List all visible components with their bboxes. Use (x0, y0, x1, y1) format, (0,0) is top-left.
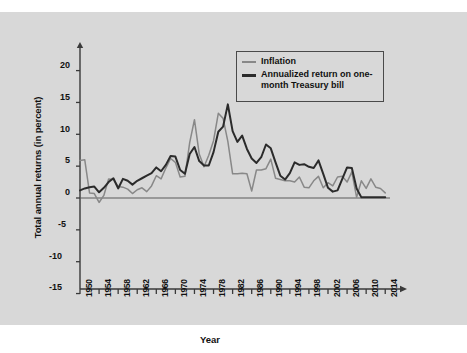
x-tick-label-1978: 1978 (217, 279, 227, 297)
legend-swatch-tbill-icon (242, 74, 256, 77)
x-tick-label-1970: 1970 (179, 279, 189, 297)
x-tick-label-1962: 1962 (141, 279, 151, 297)
x-tick-label-1990: 1990 (274, 279, 284, 297)
x-tick-label-1966: 1966 (160, 279, 170, 297)
series-line-tbill (80, 104, 385, 197)
x-tick-label-1998: 1998 (312, 279, 322, 297)
x-tick-label-1950: 1950 (84, 279, 94, 297)
x-tick-label-2014: 2014 (389, 279, 399, 297)
x-tick-label-1954: 1954 (103, 279, 113, 297)
y-tick-label-neg5: -5 (40, 219, 66, 229)
y-tick-label-10: 10 (44, 124, 70, 134)
x-tick-label-2010: 2010 (370, 279, 380, 297)
y-axis-title: Total annual returns (in percent) (32, 83, 43, 253)
y-tick-label-15: 15 (44, 92, 70, 102)
x-tick-label-1974: 1974 (198, 279, 208, 297)
figure-panel: 20 15 10 5 0 -5 -10 -15 Total annual ret… (0, 12, 467, 325)
x-tick-label-2006: 2006 (351, 279, 361, 297)
x-tick-label-1994: 1994 (293, 279, 303, 297)
y-tick-label-20: 20 (44, 60, 70, 70)
chart-legend: Inflation Annualized return on one-month… (236, 51, 384, 102)
y-tick-label-5: 5 (44, 155, 70, 165)
chart-plot-area: 20 15 10 5 0 -5 -10 -15 Total annual ret… (0, 12, 467, 325)
y-tick-label-neg10: -10 (36, 251, 62, 261)
legend-label-inflation: Inflation (261, 56, 296, 67)
legend-item-tbill: Annualized return on one-month Treasury … (242, 69, 378, 91)
legend-item-inflation: Inflation (242, 56, 378, 67)
x-tick-label-1958: 1958 (122, 279, 132, 297)
y-tick-label-0: 0 (44, 187, 70, 197)
bottom-caption (0, 340, 467, 353)
x-tick-label-1986: 1986 (255, 279, 265, 297)
figure-root: 20 15 10 5 0 -5 -10 -15 Total annual ret… (0, 0, 467, 353)
x-tick-label-2002: 2002 (332, 279, 342, 297)
legend-label-tbill: Annualized return on one-month Treasury … (261, 69, 378, 91)
legend-swatch-inflation-icon (242, 61, 256, 63)
y-tick-label-neg15: -15 (36, 282, 62, 292)
x-tick-label-1982: 1982 (236, 279, 246, 297)
